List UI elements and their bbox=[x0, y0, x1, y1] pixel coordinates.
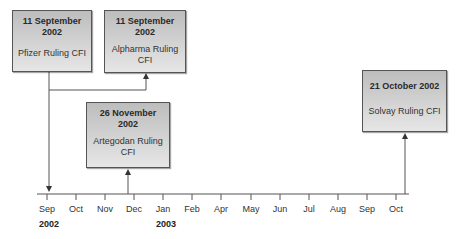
event-date: 11 September bbox=[105, 11, 185, 27]
tick-label: Jan bbox=[156, 204, 171, 214]
event-box-alpharma: 11 September 2002 Alpharma Ruling CFI bbox=[104, 10, 186, 73]
tick-label: Sep bbox=[39, 204, 55, 214]
event-date: 26 November bbox=[87, 103, 169, 119]
tick-label: Apr bbox=[214, 204, 228, 214]
event-label: Solvay Ruling CFI bbox=[363, 106, 446, 117]
tick-label: Oct bbox=[389, 204, 403, 214]
event-year: 2002 bbox=[87, 119, 169, 130]
event-year: 2002 bbox=[105, 27, 185, 38]
event-box-artegodan: 26 November 2002 Artegodan Ruling CFI bbox=[86, 102, 170, 168]
event-label: Pfizer Ruling CFI bbox=[13, 48, 91, 59]
tick-label: May bbox=[242, 204, 259, 214]
tick-label: Sep bbox=[359, 204, 375, 214]
event-box-solvay: 21 October 2002 Solvay Ruling CFI bbox=[362, 70, 447, 132]
year-label-2002: 2002 bbox=[39, 219, 59, 229]
tick-label: Aug bbox=[330, 204, 346, 214]
event-date: 21 October 2002 bbox=[363, 71, 446, 92]
year-label-2003: 2003 bbox=[156, 219, 176, 229]
tick-label: Nov bbox=[97, 204, 113, 214]
event-year: 2002 bbox=[13, 27, 91, 38]
tick-label: Feb bbox=[184, 204, 200, 214]
event-label: Artegodan Ruling CFI bbox=[87, 136, 169, 158]
event-box-pfizer: 11 September 2002 Pfizer Ruling CFI bbox=[12, 10, 92, 72]
tick-label: Oct bbox=[69, 204, 83, 214]
event-date: 11 September bbox=[13, 11, 91, 27]
event-label: Alpharma Ruling CFI bbox=[105, 44, 185, 66]
axis-ticks bbox=[47, 194, 396, 200]
tick-label: Jun bbox=[273, 204, 288, 214]
tick-label: Dec bbox=[126, 204, 142, 214]
tick-label: Jul bbox=[303, 204, 315, 214]
alpharma-connector-arrow bbox=[49, 76, 146, 90]
